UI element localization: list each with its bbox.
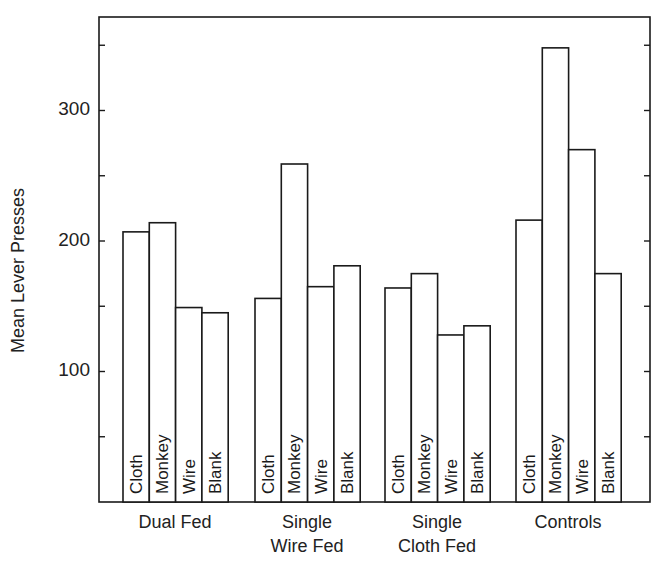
bar-label-blank: Blank <box>338 451 357 494</box>
bar-label-wire: Wire <box>573 459 592 494</box>
group-label-dual-fed: Dual Fed <box>115 510 235 534</box>
y-axis-label: Mean Lever Presses <box>8 171 29 371</box>
bar-label-monkey: Monkey <box>415 434 434 494</box>
bar-label-wire: Wire <box>180 459 199 494</box>
group-label-controls: Controls <box>508 510 628 534</box>
bar-label-cloth: Cloth <box>127 454 146 494</box>
bar-label-wire: Wire <box>442 459 461 494</box>
bar-label-wire: Wire <box>312 459 331 494</box>
group-label-single-wire-fed: Single Wire Fed <box>247 510 367 558</box>
y-tick-label-300: 300 <box>30 98 90 120</box>
bar-label-monkey: Monkey <box>153 434 172 494</box>
bar-label-blank: Blank <box>206 451 225 494</box>
bar-3-wire <box>569 150 595 502</box>
bar-label-monkey: Monkey <box>546 434 565 494</box>
group-label-single-cloth-fed: Single Cloth Fed <box>377 510 497 558</box>
bar-label-cloth: Cloth <box>389 454 408 494</box>
bar-label-monkey: Monkey <box>285 434 304 494</box>
bar-label-blank: Blank <box>468 451 487 494</box>
bar-label-cloth: Cloth <box>520 454 539 494</box>
y-tick-label-200: 200 <box>30 229 90 251</box>
y-tick-label-100: 100 <box>30 359 90 381</box>
bar-chart: ClothClothClothClothMonkeyMonkeyMonkeyMo… <box>0 0 666 573</box>
bar-3-monkey <box>542 48 568 502</box>
bar-label-blank: Blank <box>599 451 618 494</box>
bar-label-cloth: Cloth <box>259 454 278 494</box>
